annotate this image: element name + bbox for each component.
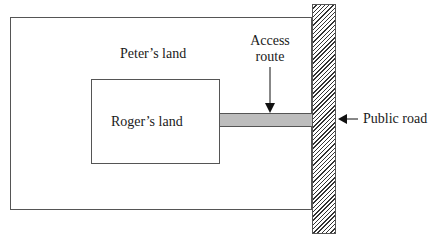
public-road-arrow	[338, 114, 358, 124]
access-route-arrow	[265, 67, 275, 113]
arrows-layer	[0, 0, 429, 240]
